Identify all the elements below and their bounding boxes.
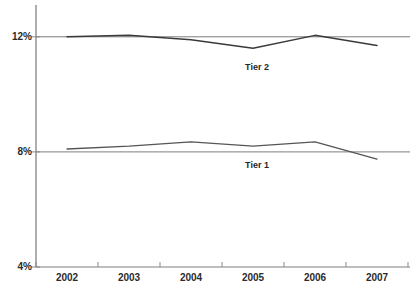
ytick-label-4: 4% [2, 261, 32, 272]
ytick-label-12: 12% [2, 31, 32, 42]
series-line-tier-2 [67, 35, 377, 48]
xtick-label-2004: 2004 [166, 272, 216, 283]
series-label-tier-2: Tier 2 [227, 62, 287, 72]
xtick-label-2003: 2003 [104, 272, 154, 283]
series-line-tier-1 [67, 142, 377, 159]
xtick-label-2007: 2007 [352, 272, 402, 283]
xtick-label-2002: 2002 [42, 272, 92, 283]
ytick-label-8: 8% [2, 146, 32, 157]
series-label-tier-1: Tier 1 [227, 160, 287, 170]
xtick-label-2005: 2005 [228, 272, 278, 283]
x-axis-ticks [36, 262, 408, 267]
plot-area [0, 0, 420, 293]
xtick-label-2006: 2006 [290, 272, 340, 283]
line-chart: 12% 8% 4% 2002 2003 2004 2005 2006 2007 … [0, 0, 420, 293]
